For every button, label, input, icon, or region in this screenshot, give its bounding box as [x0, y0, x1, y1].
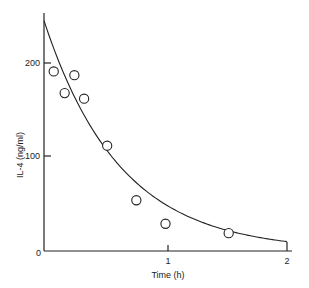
chart: 200 100 0 1 2 Time (h) IL-4 (ng/ml)	[0, 0, 309, 288]
data-point	[224, 229, 233, 238]
fit-curve	[44, 21, 287, 242]
y-tick-label-100: 100	[25, 151, 40, 161]
data-points	[49, 67, 233, 238]
data-point	[103, 141, 112, 150]
data-point	[70, 71, 79, 80]
x-tick-label-2: 2	[284, 256, 289, 266]
data-point	[60, 88, 69, 97]
data-point	[161, 219, 170, 228]
y-axis-label: IL-4 (ng/ml)	[15, 132, 25, 178]
y-tick-label-200: 200	[25, 58, 40, 68]
axes	[44, 13, 292, 251]
data-point	[79, 94, 88, 103]
x-tick-label-1: 1	[165, 256, 170, 266]
x-axis-label: Time (h)	[151, 270, 184, 280]
y-tick-label-0: 0	[36, 248, 41, 258]
data-point	[132, 196, 141, 205]
data-point	[49, 67, 58, 76]
